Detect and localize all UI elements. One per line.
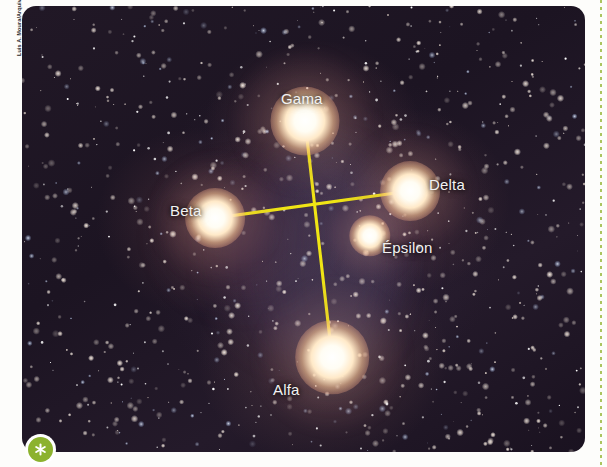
star-label-epsilon: Épsilon (382, 239, 433, 256)
green-dotted-rule (600, 0, 602, 467)
constellation-lines (22, 6, 585, 452)
figure-page: Luis A. Moura/Arquivo da editora (0, 0, 607, 467)
asterisk-icon (33, 442, 48, 457)
star-label-beta: Beta (170, 202, 202, 219)
star-label-alfa: Alfa (273, 381, 300, 398)
star-label-gama: Gama (281, 90, 323, 107)
asterisk-badge[interactable] (28, 437, 53, 462)
star-label-delta: Delta (429, 176, 465, 193)
constellation-photograph: GamaDeltaBetaÉpsilonAlfa (22, 6, 585, 452)
